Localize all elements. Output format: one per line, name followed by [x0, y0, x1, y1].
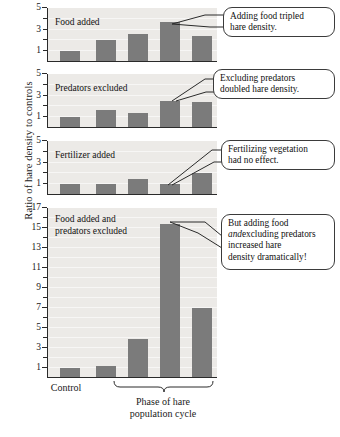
figure-hare-density-experiments: Ratio of hare density to controls Food a… — [0, 0, 340, 437]
callout-predators-excluded: Excluding predators doubled hare density… — [213, 69, 335, 99]
callout-combined-line1: But adding food — [228, 218, 288, 228]
callout-combined-emphasis: and — [228, 229, 242, 239]
callout-combined-rest: excluding predators increased hare densi… — [228, 229, 316, 261]
callout-fertilizer: Fertilizing vegetation had no effect. — [221, 140, 335, 170]
callout-food-added: Adding food tripled hare density. — [223, 7, 335, 37]
callout-fertilizer-text: Fertilizing vegetation had no effect. — [228, 144, 308, 165]
callout-combined: But adding food andexcluding predators i… — [221, 214, 335, 270]
callout-predators-excluded-text: Excluding predators doubled hare density… — [220, 73, 299, 94]
callout-food-added-text: Adding food tripled hare density. — [230, 11, 304, 32]
